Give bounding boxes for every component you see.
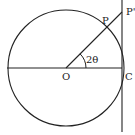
label-angle: 2θ [86,54,98,65]
label-o: O [62,71,70,82]
label-p-prime: P' [126,6,135,17]
label-p: P [102,15,109,26]
label-c: C [125,71,133,82]
circle-diagram: P' P 2θ O C [0,0,135,135]
